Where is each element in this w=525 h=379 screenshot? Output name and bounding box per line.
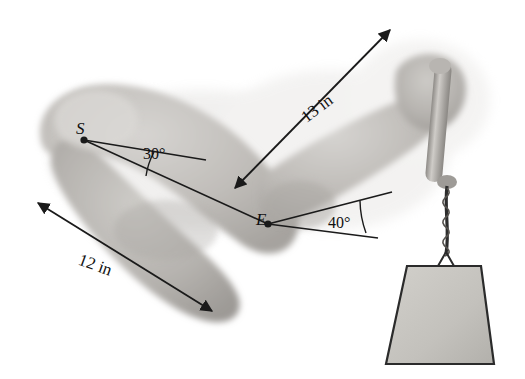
label-point-e: E	[256, 211, 266, 228]
arm-angle-diagram: 13 in 12 in 30° 40° S E	[0, 0, 525, 379]
label-angle-40: 40°	[328, 215, 350, 231]
weight-cord	[438, 186, 454, 266]
label-angle-30: 30°	[143, 146, 165, 162]
label-point-s: S	[76, 120, 85, 137]
hanging-weight	[386, 266, 494, 364]
diagram-graphics	[0, 0, 525, 379]
